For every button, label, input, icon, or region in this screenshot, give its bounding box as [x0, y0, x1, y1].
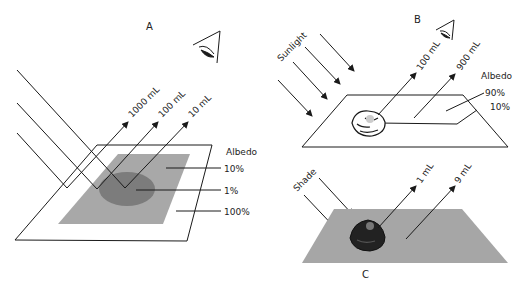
reflection-label: 900 mL: [454, 39, 482, 72]
panel-a: A 1000 mL 100 mL 10 mL Albedo 10% 1% 100: [15, 21, 258, 241]
sunlight-label: Sunlight: [275, 30, 309, 64]
panel-c: Shade 1 mL 9 mL C: [291, 161, 508, 280]
albedo-value: 90%: [485, 88, 505, 98]
reflection-label: 100 mL: [156, 88, 187, 119]
albedo-value: 1%: [224, 186, 239, 196]
panel-c-label: C: [362, 269, 369, 280]
reflection-label: 1 mL: [414, 161, 435, 185]
albedo-value: 100%: [224, 207, 250, 217]
reflection-label: 100 mL: [414, 39, 442, 72]
panel-b: B Sunlight 100 mL 9: [275, 14, 512, 147]
rock-icon: [352, 111, 385, 136]
albedo-diagram: A 1000 mL 100 mL 10 mL Albedo 10% 1% 100: [0, 0, 513, 287]
panel-b-label: B: [414, 14, 421, 25]
albedo-title: Albedo: [481, 71, 513, 81]
shade-surface-c: [302, 209, 508, 263]
albedo-value: 10%: [224, 164, 244, 174]
eye-icon: [436, 20, 454, 40]
albedo-value: 10%: [490, 102, 510, 112]
reflection-label: 10 mL: [186, 92, 213, 119]
shade-label: Shade: [291, 166, 318, 193]
surface-platform-b: [302, 95, 508, 147]
reflection-label: 9 mL: [452, 161, 473, 185]
albedo-title: Albedo: [226, 147, 258, 157]
reflection-label: 1000 mL: [126, 84, 161, 119]
eye-icon: [193, 31, 220, 63]
panel-a-label: A: [146, 21, 153, 32]
